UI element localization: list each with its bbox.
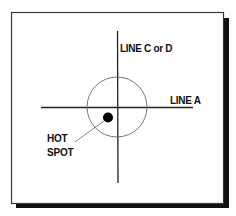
label-spot: SPOT bbox=[47, 147, 74, 158]
label-hot: HOT bbox=[47, 133, 68, 144]
diagram-canvas: LINE C or D LINE A HOT SPOT bbox=[0, 0, 236, 216]
label-line-a: LINE A bbox=[170, 95, 201, 106]
label-line-c-or-d: LINE C or D bbox=[120, 43, 172, 54]
diagram-figure: LINE C or D LINE A HOT SPOT bbox=[0, 0, 236, 216]
hot-spot-dot bbox=[103, 113, 113, 123]
